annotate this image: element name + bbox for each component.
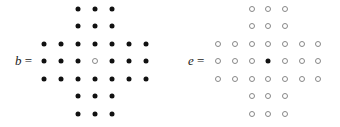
peg-filled-icon [76,42,81,47]
hole-empty-icon [315,58,321,64]
hole-empty-icon [232,76,238,82]
peg-filled-icon [144,42,149,47]
hole-empty-icon [265,41,271,47]
peg-filled-icon [144,77,149,82]
peg-filled-icon [76,59,81,64]
hole-empty-icon [265,111,271,117]
peg-filled-icon [110,112,115,117]
peg-filled-icon [93,7,98,12]
peg-filled-icon [110,59,115,64]
hole-empty-icon [282,111,288,117]
peg-filled-icon [93,94,98,99]
board-label-b: b = [15,54,32,68]
hole-empty-icon [249,111,255,117]
hole-empty-icon [249,58,255,64]
hole-empty-icon [282,23,288,29]
peg-filled-icon [76,24,81,29]
hole-empty-icon [92,58,98,64]
hole-empty-icon [315,41,321,47]
peg-filled-icon [110,42,115,47]
hole-empty-icon [249,23,255,29]
equals-sign: = [194,53,205,68]
peg-filled-icon [93,24,98,29]
hole-empty-icon [249,41,255,47]
peg-filled-icon [76,77,81,82]
hole-empty-icon [282,58,288,64]
peg-filled-icon [93,42,98,47]
hole-empty-icon [249,93,255,99]
hole-empty-icon [315,76,321,82]
hole-empty-icon [282,6,288,12]
peg-filled-icon [93,77,98,82]
peg-filled-icon [59,77,64,82]
hole-empty-icon [299,76,305,82]
peg-filled-icon [127,59,132,64]
hole-empty-icon [249,76,255,82]
hole-empty-icon [282,76,288,82]
peg-filled-icon [42,77,47,82]
hole-empty-icon [215,58,221,64]
hole-empty-icon [232,58,238,64]
hole-empty-icon [282,93,288,99]
hole-empty-icon [215,41,221,47]
peg-filled-icon [42,59,47,64]
peg-filled-icon [110,7,115,12]
peg-filled-icon [76,94,81,99]
hole-empty-icon [232,41,238,47]
peg-filled-icon [59,42,64,47]
peg-filled-icon [59,59,64,64]
peg-filled-icon [127,42,132,47]
hole-empty-icon [282,41,288,47]
peg-filled-icon [76,112,81,117]
peg-filled-icon [110,24,115,29]
peg-filled-icon [42,42,47,47]
peg-filled-icon [144,59,149,64]
hole-empty-icon [265,93,271,99]
hole-empty-icon [215,76,221,82]
hole-empty-icon [299,41,305,47]
peg-filled-icon [266,59,271,64]
board-label-e: e = [188,54,204,68]
hole-empty-icon [265,6,271,12]
peg-filled-icon [76,7,81,12]
peg-filled-icon [127,77,132,82]
peg-filled-icon [110,94,115,99]
peg-filled-icon [110,77,115,82]
hole-empty-icon [299,58,305,64]
hole-empty-icon [265,76,271,82]
peg-filled-icon [93,112,98,117]
equals-sign: = [22,53,33,68]
hole-empty-icon [249,6,255,12]
hole-empty-icon [265,23,271,29]
